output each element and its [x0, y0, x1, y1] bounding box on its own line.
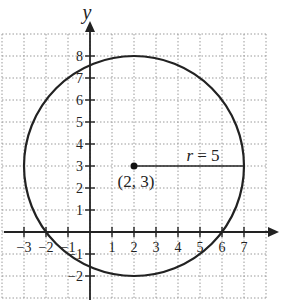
- x-tick-label: 4: [175, 240, 182, 255]
- x-tick-label: −3: [17, 240, 32, 255]
- y-tick-label: 3: [76, 159, 83, 174]
- radius-value: = 5: [193, 146, 220, 165]
- x-tick-label: −2: [39, 240, 54, 255]
- x-tick-label: 3: [153, 240, 160, 255]
- y-tick-label: 5: [76, 115, 83, 130]
- x-tick-label: 7: [241, 240, 248, 255]
- x-tick-label: 2: [131, 240, 138, 255]
- axes: [4, 21, 279, 300]
- y-tick-label: 7: [76, 71, 83, 86]
- x-tick-label: 6: [219, 240, 226, 255]
- center-point-label: (2, 3): [118, 172, 155, 191]
- circle-graph: −3−2−11234567−2−112345678 x y (2, 3) r =…: [0, 0, 281, 304]
- center-point: [131, 163, 138, 170]
- y-tick-label: −2: [68, 269, 83, 284]
- x-tick-label: 1: [109, 240, 116, 255]
- y-axis-label: y: [81, 1, 92, 24]
- y-tick-label: 4: [76, 137, 83, 152]
- y-tick-label: 2: [76, 181, 83, 196]
- y-tick-label: 6: [76, 93, 83, 108]
- y-tick-label: 1: [76, 203, 83, 218]
- radius-label: r = 5: [186, 146, 219, 165]
- y-tick-label: 8: [76, 49, 83, 64]
- x-axis-arrow-icon: [268, 227, 279, 237]
